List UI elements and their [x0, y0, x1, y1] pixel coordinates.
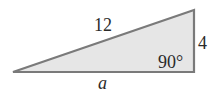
right-triangle-diagram: 12 4 90° a	[0, 0, 208, 99]
hypotenuse-label: 12	[94, 15, 112, 35]
base-label: a	[98, 73, 107, 93]
right-angle-label: 90°	[158, 52, 183, 72]
vertical-side-label: 4	[198, 33, 207, 53]
